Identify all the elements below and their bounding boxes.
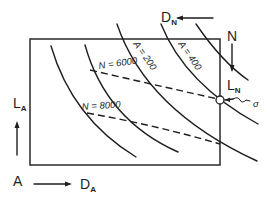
label-sigma: σ [253, 98, 260, 109]
label-da: DA [80, 176, 96, 194]
label-n6000: N = 6000 [98, 55, 139, 71]
label-dn: DN [161, 9, 177, 27]
dn-arrow-left-icon [176, 16, 183, 21]
curve-5 [196, 24, 248, 80]
dashed-line-n6000 [90, 70, 218, 99]
label-n: N [227, 28, 237, 44]
label-origin-a: A [13, 173, 23, 189]
operating-point-marker [216, 96, 224, 104]
la-arrow-up-icon [15, 121, 20, 128]
label-n8000: N = 8000 [81, 98, 121, 112]
label-ln: LN [227, 77, 241, 95]
label-a400: A = 400 [176, 38, 205, 72]
sigma-arrowhead-icon [225, 98, 230, 103]
da-arrow-right-icon [65, 182, 72, 187]
diagram-canvas: LA A DA DN N LN σ A = 200 A = 400 N = 60… [0, 0, 268, 199]
sigma-wavy-leader [233, 98, 250, 102]
label-la: LA [13, 95, 27, 113]
